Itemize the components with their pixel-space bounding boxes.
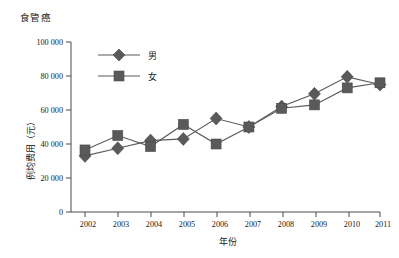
x-axis-ticks [85,212,380,217]
y-axis-title: 例均费用（元） [25,117,36,180]
data-point-diamond [308,87,320,100]
y-tick-label-60000: 60 000 [40,106,63,115]
data-point-square [146,142,156,152]
x-tick-label-1: 2003 [113,220,129,229]
data-point-diamond [341,70,353,83]
y-axis-ticks: 0 20 000 40 000 60 000 80 000 100 000 [36,38,71,217]
data-point-square [375,78,385,88]
legend-label-female: 女 [148,71,157,82]
legend-label-male: 男 [148,51,157,61]
x-tick-label-4: 2006 [212,220,228,229]
data-point-square [342,83,352,93]
x-tick-label-7: 2009 [311,220,327,229]
data-point-square [80,145,90,155]
x-tick-label-6: 2008 [278,220,294,229]
x-tick-label-2: 2004 [146,220,162,229]
data-point-square [309,100,319,110]
series-男 [79,70,386,162]
data-point-square [244,122,254,132]
y-tick-label-20000: 20 000 [40,174,63,183]
data-point-square [277,103,287,113]
legend-marker-square-icon [114,71,124,81]
x-axis-tick-labels: 2002 2003 2004 2005 2006 2007 2008 2009 … [80,220,391,229]
data-point-diamond [112,142,124,155]
y-tick-label-0: 0 [59,208,63,217]
line-chart-svg: 0 20 000 40 000 60 000 80 000 100 000 20… [0,0,399,258]
y-tick-label-40000: 40 000 [40,140,63,149]
x-tick-label-8: 2010 [344,220,360,229]
series-line-女 [85,83,380,150]
data-point-square [211,139,221,149]
series-line-男 [85,77,380,156]
y-tick-label-100000: 100 000 [36,38,63,47]
legend: 男 女 [98,49,157,82]
data-point-diamond [210,112,222,125]
x-tick-label-9: 2011 [375,220,391,229]
x-tick-label-0: 2002 [80,220,96,229]
x-axis-title: 年份 [219,236,237,247]
data-point-diamond [177,132,189,145]
y-tick-label-80000: 80 000 [40,72,63,81]
x-tick-label-3: 2005 [179,220,195,229]
chart-container: 食管癌 0 20 000 40 000 60 000 80 000 100 00… [0,0,399,258]
series-layer [79,70,386,162]
x-tick-label-5: 2007 [245,220,261,229]
data-point-square [178,119,188,129]
series-女 [80,78,385,155]
legend-marker-diamond-icon [113,49,125,61]
data-point-square [113,131,123,141]
